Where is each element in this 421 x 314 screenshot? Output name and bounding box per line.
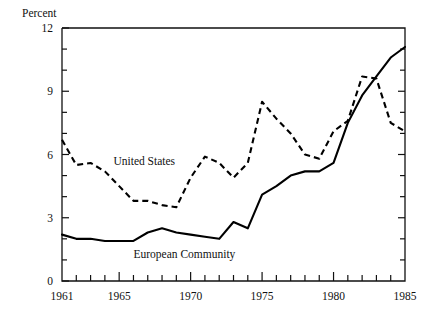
y-axis-tick-labels: 036912: [42, 22, 54, 287]
chart-container: 036912 196119651970197519801985 Percent …: [0, 0, 421, 314]
x-tick-label: 1975: [251, 290, 274, 302]
y-tick-label: 0: [47, 275, 53, 287]
y-tick-label: 6: [47, 149, 53, 161]
series-line-european-community: [62, 47, 405, 241]
y-axis-title: Percent: [22, 7, 57, 19]
y-tick-label: 9: [47, 85, 53, 97]
x-axis-tick-labels: 196119651970197519801985: [51, 290, 417, 302]
x-tick-label: 1985: [394, 290, 417, 302]
x-tick-label: 1980: [322, 290, 345, 302]
x-tick-label: 1961: [51, 290, 74, 302]
series-annotation-label: European Community: [133, 248, 235, 261]
x-axis-ticks: [76, 272, 390, 281]
y-tick-label: 3: [47, 212, 53, 224]
series-line-united-states: [62, 76, 405, 207]
series-annotation-label: United States: [113, 155, 175, 167]
x-tick-label: 1965: [108, 290, 131, 302]
x-tick-label: 1970: [179, 290, 202, 302]
line-chart: 036912 196119651970197519801985 Percent …: [0, 0, 421, 314]
y-tick-label: 12: [42, 22, 54, 34]
